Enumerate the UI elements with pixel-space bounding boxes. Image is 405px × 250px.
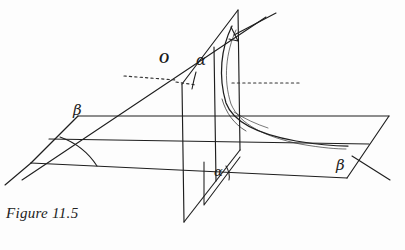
horizontal-dotted-axis — [124, 76, 300, 85]
alpha-plane-bottom-edge — [184, 150, 240, 222]
angle-arcs-group — [60, 72, 268, 180]
beta-plane-inner-line — [49, 139, 369, 144]
label-beta-left: β — [73, 103, 82, 118]
alpha-plane-inner-vertical — [214, 47, 216, 181]
base-intersection-ray — [184, 162, 280, 190]
figure-caption: Figure 11.5 — [6, 205, 78, 222]
beta-plane-bottom-edge — [31, 163, 347, 178]
alpha-plane-right-edge — [238, 10, 240, 150]
label-beta-right: β — [336, 158, 345, 173]
conic-section-curve-group — [221, 26, 348, 149]
label-alpha-upper: α — [196, 53, 206, 68]
figure-container: O α α β β Figure 11.5 — [0, 0, 405, 250]
dotted-axis-left-segment — [124, 76, 176, 80]
angle-arc-at-origin — [192, 72, 196, 89]
generator-lines-group — [22, 13, 280, 190]
beta-plane-right-extension — [352, 156, 390, 180]
beta-plane-left-extension — [5, 163, 31, 185]
hyperbola-branch-shadow — [226, 30, 346, 149]
beta-plane-group — [5, 116, 390, 185]
hyperbola-branch-main — [221, 26, 348, 146]
alpha-plane-left-edge-lower — [182, 84, 184, 222]
apex-upper-right-ray — [234, 13, 276, 35]
label-alpha-lower: α — [214, 165, 223, 178]
beta-plane-right-edge — [347, 116, 389, 178]
label-origin-O: O — [159, 52, 169, 66]
